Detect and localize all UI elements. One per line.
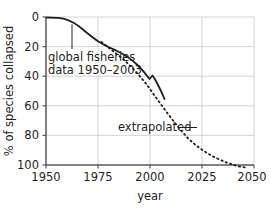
xtick-label-2025: 2025 — [187, 170, 216, 184]
xtick-label-2050: 2050 — [237, 170, 266, 184]
ytick-label-60: 60 — [24, 99, 39, 113]
ytick-label-40: 40 — [24, 69, 39, 83]
extrapolated-annotation-group: extrapolated — [118, 120, 197, 134]
data-annotation-line2: data 1950–2003 — [48, 63, 142, 77]
ytick-label-0: 0 — [32, 10, 39, 24]
chart-container: 0 20 40 60 80 100 1950 1975 2000 2025 20… — [0, 0, 271, 211]
xtick-label-1975: 1975 — [83, 170, 112, 184]
ytick-label-20: 20 — [24, 40, 39, 54]
y-axis-title: % of species collapsed — [2, 26, 16, 156]
xtick-label-1950: 1950 — [31, 170, 60, 184]
xtick-label-2000: 2000 — [135, 170, 164, 184]
ytick-label-80: 80 — [24, 128, 39, 142]
data-annotation-line1: global fisheries — [48, 50, 135, 64]
species-collapse-line-chart: 0 20 40 60 80 100 1950 1975 2000 2025 20… — [0, 0, 271, 211]
x-axis-title: year — [137, 189, 163, 203]
